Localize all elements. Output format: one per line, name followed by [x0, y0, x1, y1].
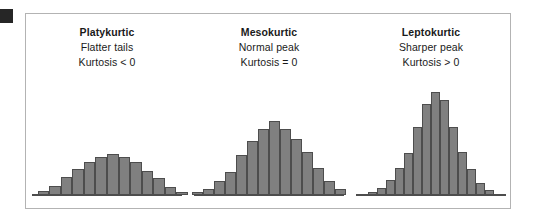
histogram-bar [269, 121, 280, 195]
histogram-bars-platykurtic [26, 71, 188, 195]
distribution-column-leptokurtic: Leptokurtic Sharper peak Kurtosis > 0 [350, 14, 512, 208]
histogram-bar [395, 168, 404, 195]
caption-leptokurtic: Leptokurtic Sharper peak Kurtosis > 0 [350, 25, 512, 70]
histogram-bar [84, 162, 96, 195]
histogram-bar [247, 141, 258, 195]
caption-title-mesokurtic: Mesokurtic [188, 25, 350, 40]
histogram-bar [130, 162, 142, 195]
histogram-bar [142, 171, 154, 195]
histogram-bar [214, 181, 225, 195]
histogram-bar [72, 169, 84, 195]
caption-title-platykurtic: Platykurtic [26, 25, 188, 40]
histogram-bar [458, 152, 467, 195]
caption-line1-leptokurtic: Sharper peak [350, 40, 512, 55]
caption-line2-leptokurtic: Kurtosis > 0 [350, 55, 512, 70]
histogram-bar [324, 181, 335, 195]
histogram-baseline-leptokurtic [356, 194, 506, 196]
histogram-bar [440, 100, 449, 195]
histogram-leptokurtic [350, 71, 512, 195]
panel-inner: Platykurtic Flatter tails Kurtosis < 0 M… [26, 14, 510, 208]
histogram-bar [431, 92, 440, 195]
histogram-baseline-platykurtic [32, 194, 182, 196]
caption-platykurtic: Platykurtic Flatter tails Kurtosis < 0 [26, 25, 188, 70]
histogram-bar [119, 157, 131, 195]
corner-marker [0, 9, 13, 23]
histogram-bar [95, 157, 107, 195]
histogram-bar [107, 154, 119, 195]
histogram-bar [280, 129, 291, 195]
caption-title-leptokurtic: Leptokurtic [350, 25, 512, 40]
histogram-bar [422, 104, 431, 195]
histogram-bar [313, 168, 324, 195]
distribution-column-mesokurtic: Mesokurtic Normal peak Kurtosis = 0 [188, 14, 350, 208]
histogram-bars-mesokurtic [188, 71, 350, 195]
histogram-bar [258, 129, 269, 195]
histogram-bar [61, 177, 73, 195]
histogram-bar [449, 127, 458, 195]
figure-panel: Platykurtic Flatter tails Kurtosis < 0 M… [25, 13, 511, 209]
histogram-bar [467, 169, 476, 195]
histogram-bar [153, 178, 165, 195]
histogram-bar [413, 127, 422, 195]
histogram-bar [404, 153, 413, 195]
caption-line2-mesokurtic: Kurtosis = 0 [188, 55, 350, 70]
histogram-bars-leptokurtic [350, 71, 512, 195]
caption-line2-platykurtic: Kurtosis < 0 [26, 55, 188, 70]
kurtosis-figure: Platykurtic Flatter tails Kurtosis < 0 M… [0, 0, 533, 222]
caption-line1-mesokurtic: Normal peak [188, 40, 350, 55]
histogram-bar [291, 139, 302, 195]
caption-mesokurtic: Mesokurtic Normal peak Kurtosis = 0 [188, 25, 350, 70]
distribution-column-platykurtic: Platykurtic Flatter tails Kurtosis < 0 [26, 14, 188, 208]
histogram-baseline-mesokurtic [194, 194, 344, 196]
histogram-bar [236, 155, 247, 195]
histogram-bar [302, 152, 313, 195]
histogram-platykurtic [26, 71, 188, 195]
caption-line1-platykurtic: Flatter tails [26, 40, 188, 55]
histogram-mesokurtic [188, 71, 350, 195]
histogram-bar [225, 172, 236, 195]
histogram-bar [386, 180, 395, 195]
